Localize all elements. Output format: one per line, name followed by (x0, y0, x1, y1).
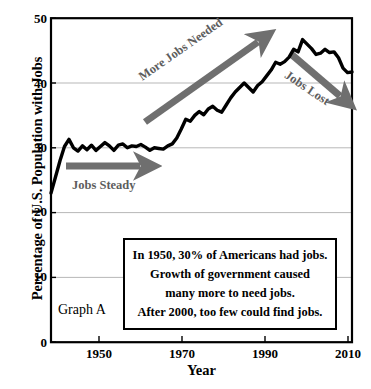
callout-line-4: After 2000, too few could find jobs. (138, 303, 323, 322)
chart-figure: Percentage of U.S. Population with Jobs … (0, 0, 371, 389)
plot-area (0, 0, 371, 389)
callout-line-2: Growth of government caused (150, 265, 310, 284)
callout-box: In 1950, 30% of Americans had jobs. Grow… (123, 238, 337, 330)
graph-caption: Graph A (58, 302, 106, 318)
annotation-arrows (66, 42, 340, 166)
callout-line-3: many more to need jobs. (165, 284, 295, 303)
data-series-line (51, 40, 352, 194)
callout-line-1: In 1950, 30% of Americans had jobs. (133, 246, 328, 265)
annotation-label-jobs-steady: Jobs Steady (72, 178, 136, 193)
